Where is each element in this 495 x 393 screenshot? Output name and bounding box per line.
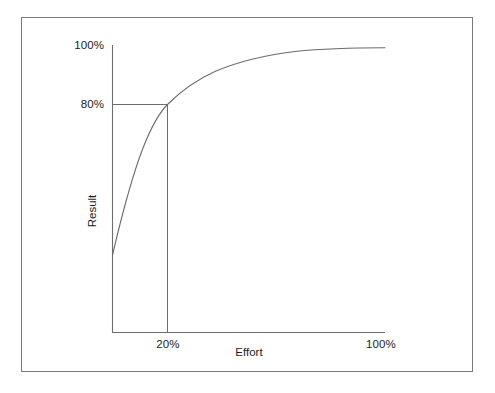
x-axis-title: Effort xyxy=(235,346,262,358)
y-axis-title: Result xyxy=(86,195,98,228)
y-axis-tick-100: 100% xyxy=(74,39,104,51)
plot-area xyxy=(0,0,495,393)
result-effort-curve xyxy=(113,48,386,255)
x-axis-tick-100: 100% xyxy=(366,338,396,350)
y-axis-tick-80: 80% xyxy=(81,98,104,110)
pareto-curve-figure: 100% 80% 20% 100% Effort Result xyxy=(0,0,495,393)
x-axis-tick-20: 20% xyxy=(156,338,179,350)
